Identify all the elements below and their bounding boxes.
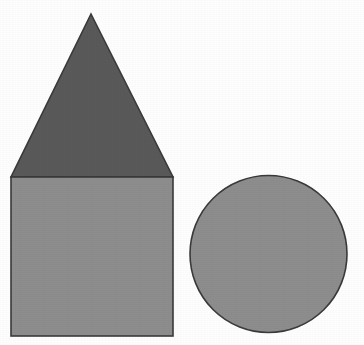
figure-canvas: Geometric shapes: house outline and circ…	[0, 0, 364, 345]
circle	[190, 176, 347, 333]
shapes-svg: Geometric shapes: house outline and circ…	[0, 0, 364, 345]
square-body	[11, 177, 173, 336]
